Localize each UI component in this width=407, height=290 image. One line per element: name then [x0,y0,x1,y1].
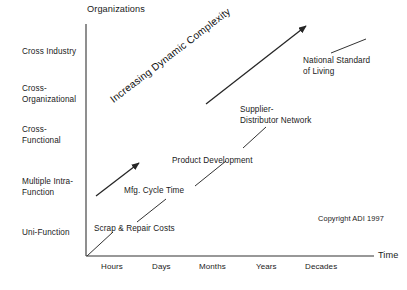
x-tick-months: Months [199,262,226,273]
stage-label-supplier-distributor-network: Supplier- Distributor Network [240,105,312,126]
y-axis-title: Organizations [87,4,145,15]
stage-connector-4 [243,127,266,148]
x-tick-hours: Hours [101,262,123,273]
stage-connector-5 [331,39,366,53]
x-tick-years: Years [256,262,277,273]
stage-label-mfg-cycle-time: Mfg. Cycle Time [124,186,184,197]
stage-label-scrap-repair-costs: Scrap & Repair Costs [94,224,175,235]
y-category-cross-functional: Cross- Functional [22,125,61,146]
x-tick-days: Days [152,262,171,273]
x-tick-decades: Decades [305,262,337,273]
trend-arrow-upper [206,26,306,104]
diagram-canvas: Organizations Time Cross Industry Cross-… [0,0,407,290]
y-category-uni-function: Uni-Function [22,228,70,239]
y-category-cross-organizational: Cross- Organizational [22,84,76,105]
x-axis-title: Time [378,250,398,261]
stage-label-national-standard-of-living: National Standard of Living [303,56,370,77]
stage-connector-1 [87,232,113,256]
copyright-notice: Copyright ADI 1997 [318,214,384,225]
stage-connector-2 [137,199,166,222]
stage-label-product-development: Product Development [172,156,253,167]
y-category-cross-industry: Cross Industry [22,47,76,58]
diagram-vector-layer [0,0,407,290]
y-category-multiple-intra-function: Multiple Intra- Function [22,177,73,198]
